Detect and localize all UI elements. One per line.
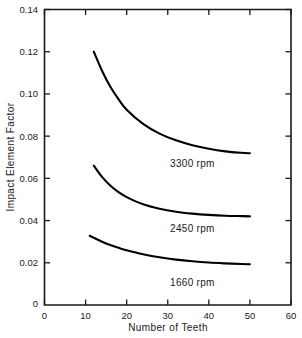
- y-tick-label-0.02: 0.02: [20, 257, 39, 268]
- x-tick-label-0: 0: [42, 310, 47, 321]
- x-tick-label-50: 50: [245, 310, 256, 321]
- x-tick-label-30: 30: [162, 310, 173, 321]
- x-tick-label-60: 60: [286, 310, 297, 321]
- x-tick-label-40: 40: [204, 310, 215, 321]
- x-axis-title: Number of Teeth: [128, 322, 208, 333]
- series-label-3300-rpm: 3300 rpm: [170, 158, 215, 169]
- x-tick-label-20: 20: [121, 310, 132, 321]
- y-axis-title: Impact Element Factor: [5, 102, 16, 211]
- chart-figure: 0102030405060 00.020.040.060.080.100.120…: [0, 0, 302, 338]
- y-tick-label-0.12: 0.12: [20, 46, 39, 57]
- y-tick-label-0.04: 0.04: [20, 215, 39, 226]
- chart-plot-area: 0102030405060 00.020.040.060.080.100.120…: [0, 0, 302, 338]
- series-label-2450-rpm: 2450 rpm: [170, 223, 215, 234]
- y-tick-label-0.14: 0.14: [20, 4, 39, 15]
- y-tick-label-0: 0: [33, 298, 38, 309]
- x-tick-label-10: 10: [80, 310, 91, 321]
- y-tick-label-0.06: 0.06: [20, 173, 39, 184]
- y-tick-label-0.10: 0.10: [20, 88, 39, 99]
- y-tick-label-0.08: 0.08: [20, 131, 39, 142]
- series-label-1660-rpm: 1660 rpm: [170, 277, 215, 288]
